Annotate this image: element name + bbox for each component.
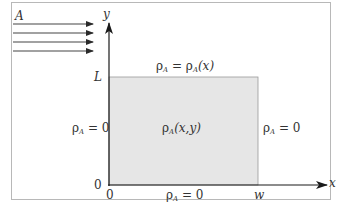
flow-label: A <box>15 10 24 22</box>
y-end-label: L <box>94 71 102 83</box>
right-boundary-condition: ρA = 0 <box>263 122 300 136</box>
interior-args: (x,y) <box>174 121 201 135</box>
left-boundary-condition: ρA = 0 <box>72 122 109 136</box>
x-end-label: w <box>254 189 264 201</box>
interior-base: ρ <box>162 121 169 135</box>
top-bc-rhs-args: (x) <box>198 59 214 73</box>
right-bc-rest: = 0 <box>275 121 300 135</box>
x-axis-label: x <box>329 177 336 189</box>
top-bc-eq: = <box>168 59 186 73</box>
top-bc-lhs: ρ <box>156 59 163 73</box>
origin-x-label: 0 <box>106 189 114 201</box>
bottom-bc-base: ρ <box>166 188 173 202</box>
flow-arrows <box>13 24 93 51</box>
diagram-graphics <box>0 0 342 213</box>
bottom-bc-rest: = 0 <box>178 188 203 202</box>
left-bc-rest: = 0 <box>84 121 109 135</box>
y-axis-label: y <box>103 8 110 20</box>
diagram-canvas: A y x L 0 0 w ρA = ρA(x) ρA = 0 ρA(x,y) … <box>0 0 342 213</box>
bottom-boundary-condition: ρA = 0 <box>166 189 203 203</box>
right-bc-base: ρ <box>263 121 270 135</box>
origin-y-label: 0 <box>94 179 102 191</box>
interior-field-label: ρA(x,y) <box>162 122 201 136</box>
left-bc-base: ρ <box>72 121 79 135</box>
top-bc-rhs: ρ <box>186 59 193 73</box>
top-boundary-condition: ρA = ρA(x) <box>156 60 214 74</box>
